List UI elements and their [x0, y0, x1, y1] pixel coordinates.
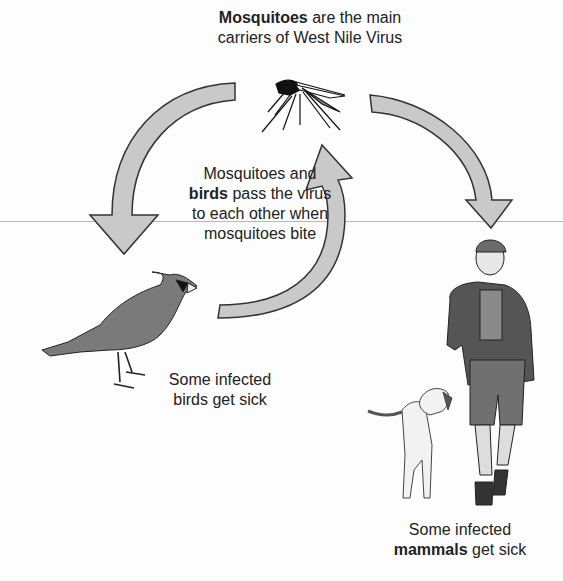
- mammals-bold: mammals: [394, 541, 468, 558]
- west-nile-cycle-diagram: Mosquitoes are the main carriers of West…: [0, 0, 563, 581]
- diagram-graphics: [0, 0, 563, 581]
- arrow-mosquito-to-mammals: [370, 95, 512, 228]
- center-line2-rest: pass the virus: [228, 185, 331, 202]
- mammals-caption: Some infected mammals get sick: [375, 520, 545, 560]
- center-bold-birds: birds: [189, 185, 228, 202]
- birds-caption-line1: Some infected: [155, 370, 285, 390]
- center-line4: mosquitoes bite: [170, 224, 350, 244]
- center-text: Mosquitoes and birds pass the virus to e…: [170, 164, 350, 244]
- mammals-caption-line1: Some infected: [375, 520, 545, 540]
- mammals-caption-rest: get sick: [468, 541, 527, 558]
- dog-illustration: [368, 389, 452, 498]
- mosquito-illustration: [262, 80, 345, 132]
- birds-caption: Some infected birds get sick: [155, 370, 285, 410]
- center-line3: to each other when: [170, 204, 350, 224]
- man-illustration: [447, 240, 534, 505]
- center-line1: Mosquitoes and: [170, 164, 350, 184]
- birds-caption-line2: birds get sick: [155, 390, 285, 410]
